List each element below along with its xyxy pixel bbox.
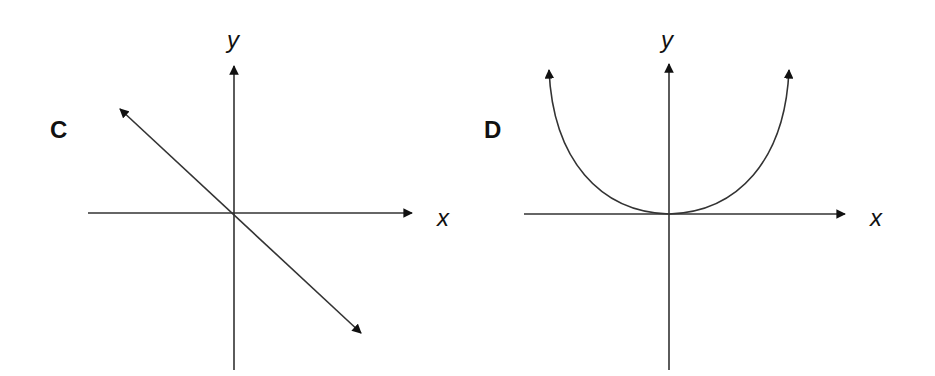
graph-c — [88, 66, 412, 370]
graph-d-x-label: x — [870, 206, 882, 230]
graph-c-y-label: y — [227, 28, 239, 52]
graphs-canvas — [0, 0, 935, 376]
graph-c-line — [120, 109, 361, 333]
graph-c-x-label: x — [437, 206, 449, 230]
graph-c-label: C — [50, 118, 67, 142]
graph-d-label: D — [484, 118, 501, 142]
graph-d — [524, 64, 845, 370]
graph-d-y-label: y — [661, 28, 673, 52]
